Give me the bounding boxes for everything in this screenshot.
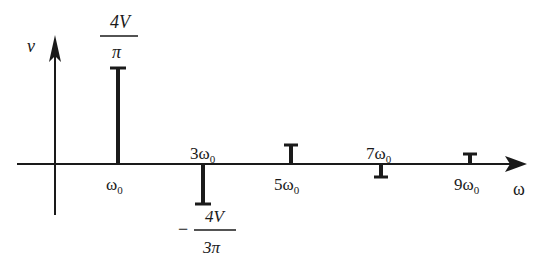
spike-3-value-sign: −: [178, 219, 188, 239]
spike-3: 3ω0 − 4V 3π: [178, 144, 236, 257]
spike-7-label: 7ω0: [366, 144, 392, 165]
spike-1: 4V π ω0: [100, 12, 138, 196]
spike-1-value-denominator: π: [112, 42, 122, 62]
spike-7: 7ω0: [366, 144, 392, 177]
spike-3-label: 3ω0: [190, 144, 216, 165]
y-axis-label: v: [27, 36, 35, 56]
spike-1-label: ω0: [106, 175, 123, 196]
x-axis-label: ω: [513, 179, 525, 199]
spike-5: 5ω0: [274, 145, 300, 196]
spectrum-diagram: v ω 4V π ω0 3ω0 − 4V 3π 5ω0 7ω0 9ω0: [0, 0, 540, 268]
spike-5-label: 5ω0: [274, 175, 300, 196]
spike-3-value-denominator: 3π: [202, 238, 221, 257]
spike-1-value-numerator: 4V: [110, 12, 132, 32]
spike-3-value-numerator: 4V: [205, 207, 227, 226]
spike-9: 9ω0: [454, 154, 480, 196]
spike-9-label: 9ω0: [454, 175, 480, 196]
